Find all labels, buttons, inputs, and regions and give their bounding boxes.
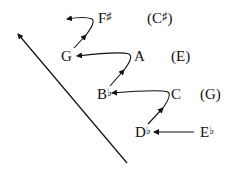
fsharp-turn-curve [67, 18, 93, 36]
arrow-layer [0, 0, 230, 176]
flat-symbol: ♭ [146, 124, 151, 136]
bflat-to-a-curve [110, 70, 124, 86]
note-g-alt: (G) [200, 87, 221, 102]
sharp-symbol: ♯ [106, 10, 112, 22]
note-letter: D [135, 124, 146, 140]
note-letter: E [200, 124, 209, 140]
paren-close: ) [168, 10, 173, 26]
a-to-g-curve [77, 53, 131, 70]
note-a: A [134, 49, 145, 64]
note-letter: A [134, 48, 145, 64]
g-to-fsharp-curve [74, 35, 86, 48]
note-letter: (E) [171, 48, 190, 64]
c-to-bflat-curve [112, 91, 169, 108]
note-e-alt: (E) [171, 49, 190, 64]
note-b-flat: B♭ [97, 87, 112, 102]
flat-symbol: ♭ [209, 124, 214, 136]
dflat-to-c-curve [148, 108, 163, 124]
note-letter: (C [147, 10, 162, 26]
note-e-flat: E♭ [200, 125, 214, 140]
note-g: G [61, 49, 72, 64]
note-letter: G [61, 48, 72, 64]
pitch-diagram: F♯ (C♯) G A (E) B♭ C (G) D♭ E♭ [0, 0, 230, 176]
note-c-sharp-alt: (C♯) [147, 11, 173, 26]
note-letter: (G) [200, 86, 221, 102]
note-c: C [171, 87, 181, 102]
flat-symbol: ♭ [107, 86, 112, 98]
note-letter: B [97, 86, 107, 102]
note-f-sharp: F♯ [98, 11, 112, 26]
note-d-flat: D♭ [135, 125, 151, 140]
note-letter: C [171, 86, 181, 102]
